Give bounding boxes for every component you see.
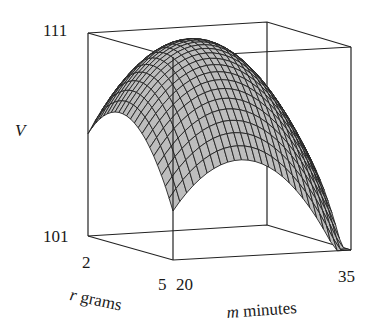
z-axis-label: V	[15, 122, 25, 139]
r-tick-max: 5	[158, 276, 167, 293]
m-tick-min: 20	[176, 276, 193, 293]
z-tick-top: 111	[43, 22, 67, 39]
m-axis-label: m minutes	[226, 299, 297, 321]
r-tick-min: 2	[82, 254, 91, 271]
z-tick-bottom: 101	[43, 228, 69, 245]
m-unit: minutes	[242, 298, 297, 321]
m-var: m	[226, 302, 240, 322]
m-tick-max: 35	[338, 268, 355, 285]
surface-mesh	[88, 39, 351, 251]
